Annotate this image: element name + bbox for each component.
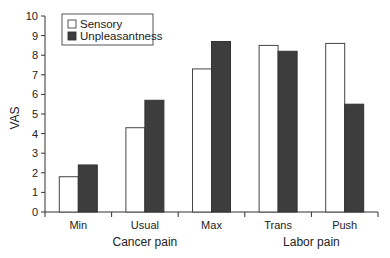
y-tick-label: 1 bbox=[32, 186, 38, 198]
group-label: Labor pain bbox=[283, 235, 340, 249]
legend-swatch-sensory bbox=[68, 20, 76, 28]
x-tick-label: Push bbox=[332, 219, 357, 231]
legend-label-unpleasantness: Unpleasantness bbox=[80, 30, 163, 42]
y-tick-label: 9 bbox=[32, 30, 38, 42]
x-tick-label: Trans bbox=[264, 219, 292, 231]
group-labels: Cancer painLabor pain bbox=[113, 235, 340, 249]
bar-sensory-max bbox=[193, 69, 212, 212]
bar-unpleasantness-usual bbox=[145, 100, 164, 212]
bar-chart: 012345678910 MinUsualMaxTransPush Cancer… bbox=[0, 0, 390, 258]
y-axis: 012345678910 bbox=[26, 10, 45, 218]
y-tick-label: 5 bbox=[32, 108, 38, 120]
x-tick-label: Max bbox=[201, 219, 222, 231]
y-tick-label: 3 bbox=[32, 147, 38, 159]
bars bbox=[59, 41, 363, 212]
bar-sensory-min bbox=[59, 177, 78, 212]
bar-unpleasantness-max bbox=[212, 41, 231, 212]
y-axis-title: VAS bbox=[8, 106, 22, 129]
y-tick-label: 4 bbox=[32, 128, 38, 140]
legend-swatch-unpleasantness bbox=[68, 32, 76, 40]
group-label: Cancer pain bbox=[113, 235, 178, 249]
x-tick-label: Usual bbox=[131, 219, 159, 231]
y-tick-label: 6 bbox=[32, 88, 38, 100]
bar-unpleasantness-trans bbox=[278, 51, 297, 212]
y-tick-label: 2 bbox=[32, 167, 38, 179]
x-tick-label: Min bbox=[69, 219, 87, 231]
y-tick-label: 0 bbox=[32, 206, 38, 218]
bar-unpleasantness-min bbox=[78, 165, 97, 212]
x-axis: MinUsualMaxTransPush bbox=[45, 212, 378, 231]
bar-unpleasantness-push bbox=[345, 104, 364, 212]
legend-label-sensory: Sensory bbox=[80, 18, 122, 30]
y-tick-label: 8 bbox=[32, 49, 38, 61]
y-tick-label: 7 bbox=[32, 69, 38, 81]
y-tick-label: 10 bbox=[26, 10, 38, 22]
bar-sensory-trans bbox=[259, 45, 278, 212]
bar-sensory-usual bbox=[126, 128, 145, 212]
legend: Sensory Unpleasantness bbox=[62, 14, 163, 45]
bar-sensory-push bbox=[326, 43, 345, 212]
